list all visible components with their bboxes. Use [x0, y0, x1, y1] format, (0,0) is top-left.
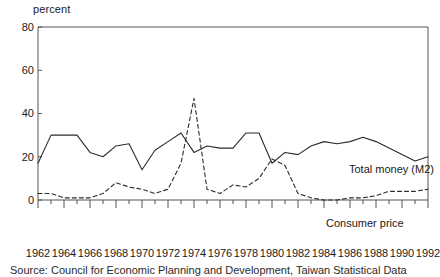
x-tick-label-1982: 1982 — [286, 247, 310, 259]
y-tick-label-20: 20 — [10, 152, 34, 163]
x-tick-label-1974: 1974 — [182, 247, 206, 259]
x-axis-ticks — [38, 200, 428, 208]
x-tick-label-1990: 1990 — [390, 247, 414, 259]
y-axis-tick-labels: 80 60 40 20 0 — [6, 0, 34, 273]
x-tick-label-1964: 1964 — [52, 247, 76, 259]
x-tick-label-1966: 1966 — [78, 247, 102, 259]
x-axis-tick-labels: 1962196419661968197019721974197619781980… — [0, 247, 435, 261]
series-line-consumer-price — [38, 98, 428, 200]
x-tick-label-1972: 1972 — [156, 247, 180, 259]
y-axis-ticks — [38, 27, 42, 200]
x-tick-label-1986: 1986 — [338, 247, 362, 259]
y-tick-label-40: 40 — [10, 108, 34, 119]
x-tick-label-1988: 1988 — [364, 247, 388, 259]
x-tick-label-1976: 1976 — [208, 247, 232, 259]
x-tick-label-1970: 1970 — [130, 247, 154, 259]
x-tick-label-1992: 1992 — [416, 247, 440, 259]
y-tick-label-0: 0 — [10, 195, 34, 206]
y-axis-unit-label: percent — [33, 3, 70, 15]
x-tick-label-1962: 1962 — [26, 247, 50, 259]
x-tick-label-1980: 1980 — [260, 247, 284, 259]
plot-area: Total money (M2) Consumer price — [38, 27, 428, 200]
x-tick-label-1978: 1978 — [234, 247, 258, 259]
annotation-consumer-price: Consumer price — [326, 217, 404, 229]
annotation-total-money-m2: Total money (M2) — [349, 163, 434, 175]
y-tick-label-80: 80 — [10, 22, 34, 33]
x-tick-label-1984: 1984 — [312, 247, 336, 259]
source-note: Source: Council for Economic Planning an… — [10, 264, 435, 277]
y-tick-label-60: 60 — [10, 65, 34, 76]
x-tick-label-1968: 1968 — [104, 247, 128, 259]
